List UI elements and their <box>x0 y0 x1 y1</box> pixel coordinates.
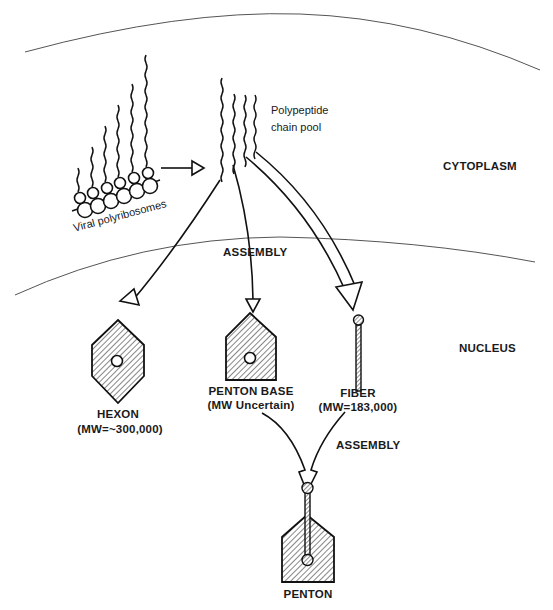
penton-shape <box>282 483 334 583</box>
nucleus-label: NUCLEUS <box>459 342 516 354</box>
polypeptide-pool-label-line2: chain pool <box>271 121 321 133</box>
penton-base-shape <box>226 313 276 380</box>
polypeptide-pool-label-line1: Polypeptide <box>271 104 329 116</box>
assembly-converge-arrow <box>262 412 345 492</box>
cell-membrane <box>25 14 540 70</box>
cytoplasm-label: CYTOPLASM <box>443 160 517 172</box>
fiber-mw: (MW=183,000) <box>319 401 398 413</box>
nascent-chains <box>77 55 147 192</box>
penton-base-mw: (MW Uncertain) <box>207 399 294 411</box>
arrow-to-pool <box>161 161 204 175</box>
penton-base-name: PENTON BASE <box>208 385 293 397</box>
fiber-shape <box>354 315 364 391</box>
hexon-shape <box>92 320 144 403</box>
fiber-name: FIBER <box>340 387 376 399</box>
hexon-name: HEXON <box>97 408 139 420</box>
arrow-to-fiber <box>246 152 362 310</box>
assembly-diagram <box>0 0 553 610</box>
penton-name: PENTON <box>284 588 333 600</box>
assembly-label-nucleus: ASSEMBLY <box>336 439 400 451</box>
hexon-mw: (MW=~300,000) <box>77 423 163 435</box>
polypeptide-pool <box>221 78 256 182</box>
assembly-label-cytoplasm: ASSEMBLY <box>223 246 287 258</box>
